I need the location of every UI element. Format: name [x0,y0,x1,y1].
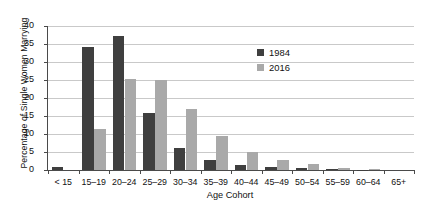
x-tick-mark [231,170,232,174]
bar-group [323,26,354,170]
x-tick-label: 40–44 [231,177,262,187]
legend-entry-2016: 2016 [257,60,290,75]
bar-2016-25–29 [155,80,167,170]
x-tick-mark [140,170,141,174]
bar-1984-45–49 [265,167,277,170]
legend-label-1984: 1984 [269,47,290,58]
bar-1984-50–54 [296,168,308,170]
bar-1984-35–39 [204,160,216,170]
bar-1984-15 [52,167,64,170]
bar-2016-30–34 [186,109,198,170]
x-axis-title: Age Cohort [47,190,413,200]
legend-swatch-icon-1984 [257,49,264,56]
legend-swatch-icon-2016 [257,64,264,71]
bar-group [170,26,201,170]
bar-1984-30–34 [174,148,186,170]
x-tick-label: 65+ [384,177,415,187]
x-tick-mark [170,170,171,174]
y-tick-label: 0 [0,164,34,174]
y-tick-label: 15 [0,110,34,120]
x-tick-label: 55–59 [323,177,354,187]
x-tick-mark [384,170,385,174]
bar-1984-25–29 [143,113,155,170]
bar-2016-15–19 [94,129,106,170]
y-tick-label: 40 [0,20,34,30]
y-tick-label: 10 [0,128,34,138]
bar-group [353,26,384,170]
x-tick-label: 50–54 [292,177,323,187]
bar-2016-50–54 [308,164,320,170]
bar-group [140,26,171,170]
bar-group [48,26,79,170]
bar-group [201,26,232,170]
x-tick-label: 60–64 [353,177,384,187]
bar-2016-20–24 [125,79,137,170]
x-tick-label: 45–49 [262,177,293,187]
x-tick-label: 15–19 [79,177,110,187]
y-tick-label: 20 [0,92,34,102]
x-tick-mark [323,170,324,174]
x-tick-mark [201,170,202,174]
y-tick-label: 35 [0,38,34,48]
bar-group [292,26,323,170]
bar-1984-40–44 [235,165,247,170]
x-tick-mark [79,170,80,174]
bar-group [79,26,110,170]
x-tick-mark [292,170,293,174]
x-tick-label: 35–39 [201,177,232,187]
bars-layer [48,26,414,170]
y-tick-label: 25 [0,74,34,84]
x-tick-mark [414,170,415,174]
x-tick-label: 25–29 [140,177,171,187]
bar-2016-45–49 [277,160,289,170]
y-tick-label: 5 [0,146,34,156]
bar-chart-figure: Percentage of Single Women Marrying 0510… [0,0,423,210]
legend: 1984 2016 [257,45,290,75]
legend-label-2016: 2016 [269,62,290,73]
bar-1984-20–24 [113,36,125,170]
plot-area: 0510152025303540 < 1515–1920–2425–2930–3… [47,26,414,171]
bar-1984-15–19 [82,47,94,170]
x-tick-mark [353,170,354,174]
x-tick-label: 20–24 [109,177,140,187]
x-tick-mark [48,170,49,174]
bar-1984-55–59 [326,169,338,170]
bar-2016-35–39 [216,136,228,170]
bar-group [384,26,415,170]
bar-2016-55–59 [338,168,350,170]
x-tick-label: 30–34 [170,177,201,187]
bar-2016-60–64 [369,169,381,170]
x-tick-mark [109,170,110,174]
y-tick-label: 30 [0,56,34,66]
legend-entry-1984: 1984 [257,45,290,60]
x-tick-label: < 15 [48,177,79,187]
x-tick-mark [262,170,263,174]
bar-group [109,26,140,170]
bar-2016-40–44 [247,152,259,170]
